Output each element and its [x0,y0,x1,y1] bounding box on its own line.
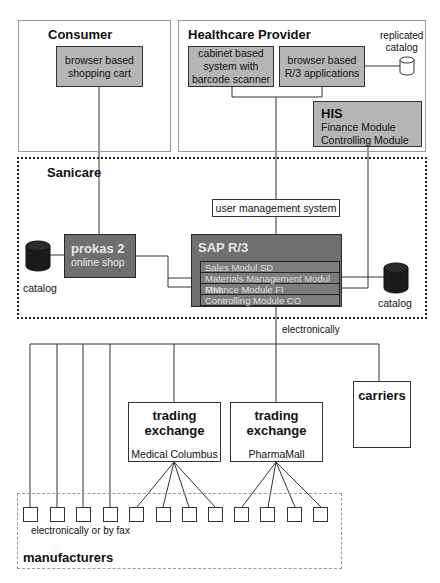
prokas-box: prokas 2 online shop [64,234,136,278]
shopping-cart-box: browser based shopping cart [56,46,143,87]
right-catalog-database-icon [383,262,409,294]
module-co: Controlling Module CO [200,294,340,306]
exchange-right-title2: exchange [247,423,307,438]
module-mm: Materials Management Modul MM [200,272,340,284]
manufacturer-1 [23,507,38,522]
manufacturer-7 [182,507,197,522]
manufacturer-8 [208,507,223,522]
prokas-subtitle: online shop [71,256,125,269]
cabinet-line1: cabinet based [198,47,263,60]
manufacturer-12 [313,507,328,522]
his-line2: Controlling Module [321,134,409,147]
exchange-left-title1: trading [152,408,196,423]
cabinet-line2: system with [204,60,259,73]
right-catalog-label: catalog [378,297,412,309]
exchange-left-name: Medical Columbus [131,448,217,461]
shopping-cart-line2: shopping cart [68,67,131,80]
manufacturer-11 [287,507,302,522]
user-management-box: user management system [212,199,340,217]
manufacturer-4 [103,507,118,522]
his-title: HIS [321,106,343,121]
cabinet-system-box: cabinet based system with barcode scanne… [188,46,274,87]
cabinet-line3: barcode scanner [192,73,270,86]
sanicare-title: Sanicare [47,165,101,180]
exchange-right-name: PharmaMall [248,448,304,461]
healthcare-provider-title: Healthcare Provider [188,27,311,42]
electronically-label: electronically [282,324,340,335]
carriers-label: carriers [358,388,406,403]
manufacturer-5 [129,507,144,522]
replicated-catalog-label: replicated catalog [380,30,423,54]
manufacturers-region: electronically or by fax manufacturers [17,493,342,569]
manufacturers-title: manufacturers [23,550,113,565]
r3-line2: R/3 applications [285,67,360,80]
carriers-box: carriers [353,381,411,448]
user-management-label: user management system [216,202,337,215]
consumer-title: Consumer [48,27,112,42]
manufacturer-9 [234,507,249,522]
exchange-pharmamall: trading exchange PharmaMall [230,402,323,462]
exchange-left-title2: exchange [145,423,205,438]
manufacturer-3 [76,507,91,522]
left-catalog-label: catalog [23,282,57,294]
sap-title: SAP R/3 [198,240,248,255]
r3-applications-box: browser based R/3 applications [279,46,365,87]
manufacturers-direct-label: electronically or by fax [31,525,130,536]
prokas-title: prokas 2 [71,241,124,256]
manufacturer-2 [50,507,65,522]
shopping-cart-line1: browser based [65,54,134,67]
left-catalog-database-icon [25,240,51,272]
manufacturer-6 [156,507,171,522]
his-line1: Finance Module [321,121,396,134]
replicated-catalog-database-icon [399,56,415,76]
exchange-right-title1: trading [254,408,298,423]
sap-modules-list: Sales Modul SD Materials Management Modu… [200,261,340,306]
his-box: HIS Finance Module Controlling Module [313,101,422,147]
manufacturer-10 [260,507,275,522]
exchange-medical-columbus: trading exchange Medical Columbus [128,402,221,462]
r3-line1: browser based [288,54,357,67]
